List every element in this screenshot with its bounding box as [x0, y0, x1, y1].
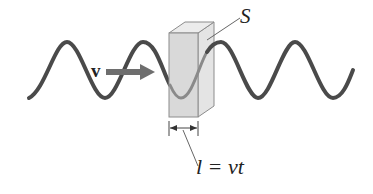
length-equation-label: l = vt: [196, 154, 244, 180]
diagram-svg: [0, 0, 373, 194]
velocity-arrow-icon: [106, 64, 155, 80]
box-front: [169, 33, 198, 117]
wave-right: [207, 42, 353, 98]
velocity-label: v: [91, 60, 101, 82]
diagram-canvas: v S l = vt: [0, 0, 373, 194]
surface-label: S: [240, 4, 251, 29]
length-dimension: [169, 121, 198, 136]
